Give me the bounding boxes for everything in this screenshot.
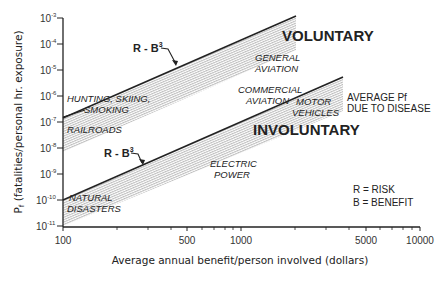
y-tick-label: 10-7: [40, 116, 57, 128]
arrow-icon: [131, 153, 142, 163]
y-tick-label: 10-3: [40, 12, 57, 24]
natural-disasters-label-1: NATURAL: [69, 192, 113, 203]
natural-disasters-label-2: DISASTERS: [67, 203, 122, 214]
y-axis-title: Pf (fatalities/personal hr. exposure): [12, 31, 26, 214]
commercial-aviation-label-2: AVIATION: [245, 95, 289, 106]
general-aviation-label-2: AVIATION: [254, 63, 298, 74]
hunting-label: HUNTING, SKIING,: [67, 93, 150, 104]
y-tick-label: 10-8: [40, 142, 57, 154]
involuntary-label: INVOLUNTARY: [253, 121, 360, 138]
y-tick-labels: 10-3 10-4 10-5 10-6 10-7 10-8 10-9 10-10…: [36, 12, 57, 232]
x-axis: [63, 227, 420, 231]
x-tick-label: 500: [179, 235, 196, 246]
smoking-label: SMOKING: [84, 104, 129, 115]
railroads-label: RAILROADS: [67, 124, 123, 135]
x-tick-label: 100: [55, 235, 72, 246]
svg-text:R - B3: R - B3: [133, 41, 163, 54]
y-tick-label: 10-6: [40, 90, 57, 102]
legend-benefit: B = BENEFIT: [353, 197, 413, 208]
motor-vehicles-label-1: MOTOR: [296, 96, 331, 107]
y-tick-label: 10-10: [36, 194, 56, 206]
x-tick-label: 1000: [230, 235, 253, 246]
electric-power-label-1: ELECTRIC: [210, 158, 257, 169]
commercial-aviation-label-1: COMMERCIAL: [238, 84, 302, 95]
y-axis: [57, 18, 63, 227]
risk-benefit-chart: 10-3 10-4 10-5 10-6 10-7 10-8 10-9 10-10…: [0, 0, 446, 281]
legend-risk: R = RISK: [353, 184, 395, 195]
y-tick-label: 10-4: [40, 38, 57, 50]
x-tick-labels: 100 500 1000 5000 10000: [55, 235, 435, 246]
motor-vehicles-label-2: VEHICLES: [292, 107, 340, 118]
x-tick-label: 5000: [355, 235, 378, 246]
general-aviation-label-1: GENERAL: [255, 52, 300, 63]
svg-text:R - B3: R - B3: [104, 146, 134, 159]
average-disease-label-2: DUE TO DISEASE: [347, 103, 431, 114]
rb-label-voluntary: R - B3: [133, 41, 178, 66]
electric-power-label-2: POWER: [214, 169, 250, 180]
y-tick-label: 10-5: [40, 64, 57, 76]
average-disease-label-1: AVERAGE Pf: [347, 92, 407, 103]
voluntary-label: VOLUNTARY: [282, 27, 374, 44]
y-tick-label: 10-9: [40, 168, 57, 180]
y-tick-label: 10-11: [36, 220, 56, 232]
rb-label-involuntary: R - B3: [104, 146, 145, 165]
x-tick-label: 10000: [406, 235, 434, 246]
x-axis-title: Average annual benefit/person involved (…: [112, 254, 369, 266]
arrowhead-icon: [172, 60, 178, 66]
